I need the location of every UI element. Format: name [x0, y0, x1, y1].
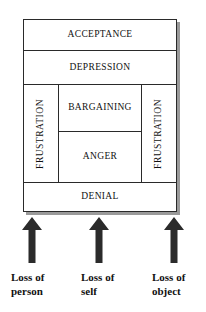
stage-frustration-right: FRUSTRATION	[141, 85, 176, 182]
caption-loss-of-object-line2: object	[152, 284, 185, 298]
stage-denial-label: DENIAL	[81, 192, 118, 202]
arrow-up-icon-loss-of-person	[21, 217, 43, 263]
caption-loss-of-self: Loss of self	[81, 270, 114, 298]
stage-depression-label: DEPRESSION	[69, 63, 130, 73]
stage-middle-row: FRUSTRATION BARGAINING ANGER FRUSTRATION	[24, 85, 176, 183]
grief-stages-diagram: ACCEPTANCE DEPRESSION FRUSTRATION BARGAI…	[23, 19, 177, 212]
stage-frustration-right-label: FRUSTRATION	[154, 99, 164, 169]
caption-loss-of-object: Loss of object	[152, 270, 185, 298]
stage-acceptance: ACCEPTANCE	[24, 20, 176, 51]
caption-loss-of-object-line1: Loss of	[152, 270, 185, 284]
arrow-up-icon-loss-of-self	[88, 217, 110, 263]
stage-depression: DEPRESSION	[24, 51, 176, 85]
caption-loss-of-person-line1: Loss of	[11, 270, 44, 284]
arrow-up-icon-loss-of-object	[163, 217, 185, 263]
stage-center-column: BARGAINING ANGER	[59, 85, 141, 182]
stage-denial: DENIAL	[24, 183, 176, 211]
stage-bargaining: BARGAINING	[59, 85, 141, 132]
stage-anger: ANGER	[59, 132, 141, 182]
caption-loss-of-person-line2: person	[11, 284, 44, 298]
caption-loss-of-self-line2: self	[81, 284, 114, 298]
stage-bargaining-label: BARGAINING	[68, 103, 132, 113]
stage-frustration-left: FRUSTRATION	[24, 85, 59, 182]
caption-loss-of-self-line1: Loss of	[81, 270, 114, 284]
stage-acceptance-label: ACCEPTANCE	[67, 30, 132, 40]
stage-frustration-left-label: FRUSTRATION	[36, 99, 46, 169]
caption-loss-of-person: Loss of person	[11, 270, 44, 298]
stage-anger-label: ANGER	[83, 152, 117, 162]
